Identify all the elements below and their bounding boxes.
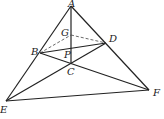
diagram-lines bbox=[0, 0, 164, 119]
segment-ed bbox=[6, 43, 106, 101]
segment-ef bbox=[6, 90, 149, 101]
point-label-p: P bbox=[64, 50, 71, 60]
segment-ae bbox=[6, 6, 71, 101]
point-label-b: B bbox=[31, 47, 38, 57]
dashed-segment-gd bbox=[71, 35, 106, 43]
point-label-d: D bbox=[109, 34, 117, 44]
point-label-g: G bbox=[61, 28, 69, 38]
geometry-diagram: A B C D E F G P bbox=[0, 0, 164, 119]
segment-bd bbox=[40, 43, 106, 53]
segment-af bbox=[71, 6, 149, 90]
point-label-f: F bbox=[153, 88, 160, 98]
point-label-e: E bbox=[0, 105, 7, 115]
point-label-a: A bbox=[68, 0, 75, 9]
point-label-c: C bbox=[67, 67, 75, 77]
